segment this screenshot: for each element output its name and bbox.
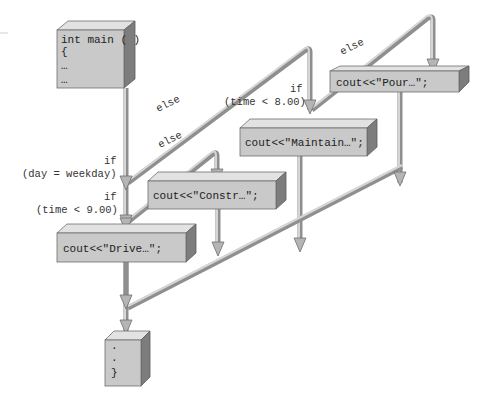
else-label-3: else: [338, 36, 366, 58]
cond-time9-if: if: [104, 191, 117, 203]
main-line-4: …: [61, 74, 68, 86]
cond-day-expr: (day = weekday): [22, 168, 117, 180]
maintain-text: cout<<"Maintain…";: [245, 137, 364, 149]
end-line-1: .: [111, 340, 118, 352]
drive-block: cout<<"Drive…";: [57, 224, 196, 262]
cond-time9-expr: (time < 9.00): [36, 204, 118, 216]
main-line-3: …: [61, 60, 68, 72]
main-line-2: {: [61, 46, 68, 58]
else-label-1: else: [154, 93, 182, 115]
drive-text: cout<<"Drive…";: [63, 243, 162, 255]
cond-time8-if: if: [290, 83, 303, 95]
end-line-2: .: [111, 352, 118, 364]
constr-block: cout<<"Constr…";: [148, 172, 286, 209]
main-line-1: int main ( ): [61, 34, 140, 46]
pour-text: cout<<"Pour…";: [336, 77, 428, 89]
end-block: . . }: [105, 331, 150, 386]
maintain-block: cout<<"Maintain…";: [240, 119, 377, 156]
cond-time8-expr: (time < 8.00): [224, 96, 306, 108]
main-function-block: int main ( ) { … …: [57, 21, 140, 88]
flowchart-diagram: int main ( ) { … … cout<<"Pour…"; cout<<…: [0, 0, 493, 408]
end-line-3: }: [111, 367, 118, 379]
pour-block: cout<<"Pour…";: [330, 66, 469, 92]
constr-text: cout<<"Constr…";: [153, 190, 259, 202]
cond-day-if: if: [104, 155, 117, 167]
